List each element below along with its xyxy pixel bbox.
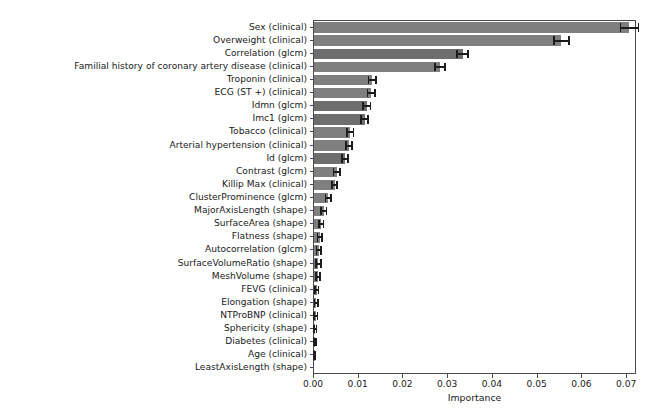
error-bar-cap bbox=[553, 36, 555, 44]
x-axis-tick bbox=[581, 374, 582, 378]
y-axis-tick bbox=[310, 367, 314, 368]
error-bar-cap bbox=[351, 141, 353, 149]
error-bar-cap bbox=[323, 220, 325, 228]
y-axis-tick bbox=[310, 315, 314, 316]
error-bar-cap bbox=[467, 50, 469, 58]
x-axis-tick-label: 0.05 bbox=[527, 379, 547, 390]
error-bar-cap bbox=[336, 181, 338, 189]
y-axis-label: Contrast (glcm) bbox=[236, 166, 307, 176]
y-axis-label: MeshVolume (shape) bbox=[212, 271, 307, 281]
y-axis-tick bbox=[310, 53, 314, 54]
error-bar-cap bbox=[315, 338, 317, 346]
bar-row bbox=[314, 336, 635, 349]
y-axis-tick bbox=[310, 27, 314, 28]
y-axis-tick bbox=[310, 92, 314, 93]
error-bar-cap bbox=[375, 76, 377, 84]
error-bar-cap bbox=[320, 207, 322, 215]
x-axis-tick-label: 0.03 bbox=[437, 379, 457, 390]
error-bar-cap bbox=[347, 154, 349, 162]
y-axis-tick bbox=[310, 158, 314, 159]
error-bar-cap bbox=[313, 312, 315, 320]
y-axis-label: Familial history of coronary artery dise… bbox=[74, 61, 307, 71]
bar-row bbox=[314, 34, 635, 47]
error-bar-cap bbox=[314, 286, 316, 294]
bar bbox=[314, 62, 440, 72]
error-bar-cap bbox=[362, 102, 364, 110]
y-axis-label: MajorAxisLength (shape) bbox=[194, 205, 307, 215]
error-bar-cap bbox=[319, 272, 321, 280]
bar bbox=[314, 101, 367, 111]
feature-importance-figure: Sex (clinical)Overweight (clinical)Corre… bbox=[0, 0, 670, 415]
error-bar-cap bbox=[331, 181, 333, 189]
error-bar-cap bbox=[353, 128, 355, 136]
error-bar-cap bbox=[568, 36, 570, 44]
x-axis-tick-label: 0.01 bbox=[348, 379, 368, 390]
y-axis-label: FEVG (clinical) bbox=[241, 284, 307, 294]
error-bar-cap bbox=[318, 286, 320, 294]
y-axis-tick bbox=[310, 341, 314, 342]
bar-row bbox=[314, 191, 635, 204]
y-axis-tick bbox=[310, 289, 314, 290]
bar-row bbox=[314, 60, 635, 73]
y-axis-label: Killip Max (clinical) bbox=[222, 179, 307, 189]
error-bar-cap bbox=[367, 115, 369, 123]
bar bbox=[314, 22, 629, 32]
error-bar-cap bbox=[620, 23, 622, 31]
y-axis-tick bbox=[310, 354, 314, 355]
error-bar-cap bbox=[318, 220, 320, 228]
bar-row bbox=[314, 87, 635, 100]
error-bar-cap bbox=[434, 63, 436, 71]
bar-row bbox=[314, 349, 635, 362]
bar-row bbox=[314, 126, 635, 139]
error-bar-cap bbox=[315, 351, 317, 359]
bar-row bbox=[314, 218, 635, 231]
y-axis-label: Elongation (shape) bbox=[221, 297, 307, 307]
error-bar-cap bbox=[374, 89, 376, 97]
bar-row bbox=[314, 283, 635, 296]
x-axis-tick-label: 0.00 bbox=[303, 379, 323, 390]
bar-row bbox=[314, 205, 635, 218]
error-bar-cap bbox=[326, 207, 328, 215]
error-bar-cap bbox=[368, 76, 370, 84]
error-bar-cap bbox=[341, 154, 343, 162]
bar-row bbox=[314, 152, 635, 165]
y-axis-tick bbox=[310, 131, 314, 132]
bar bbox=[314, 127, 350, 137]
y-axis-label: Correlation (glcm) bbox=[225, 48, 307, 58]
bar-row bbox=[314, 257, 635, 270]
x-axis-tick bbox=[537, 374, 538, 378]
error-bar-cap bbox=[638, 23, 640, 31]
x-axis-tick bbox=[358, 374, 359, 378]
error-bar-cap bbox=[456, 50, 458, 58]
y-axis-label: Overweight (clinical) bbox=[213, 35, 307, 45]
error-bar-cap bbox=[317, 299, 319, 307]
y-axis-label: Imc1 (glcm) bbox=[253, 113, 307, 123]
error-bar-line bbox=[620, 27, 638, 29]
x-axis-tick-label: 0.06 bbox=[571, 379, 591, 390]
y-axis-label: SurfaceArea (shape) bbox=[214, 218, 307, 228]
bar bbox=[314, 140, 349, 150]
bar-row bbox=[314, 73, 635, 86]
bar-row bbox=[314, 113, 635, 126]
error-bar-cap bbox=[321, 233, 323, 241]
error-bar-cap bbox=[317, 233, 319, 241]
error-bar-cap bbox=[313, 325, 315, 333]
error-bar-cap bbox=[367, 89, 369, 97]
y-axis-label: Idmn (glcm) bbox=[252, 100, 307, 110]
x-axis-tick-label: 0.02 bbox=[392, 379, 412, 390]
y-axis-tick bbox=[310, 118, 314, 119]
error-bar-cap bbox=[333, 168, 335, 176]
bar bbox=[314, 49, 463, 59]
bar-row bbox=[314, 362, 635, 375]
y-axis-tick bbox=[310, 276, 314, 277]
y-axis-label: Sphericity (shape) bbox=[224, 323, 307, 333]
y-axis-label: Autocorrelation (glcm) bbox=[205, 244, 307, 254]
error-bar-cap bbox=[315, 259, 317, 267]
y-axis-tick bbox=[310, 249, 314, 250]
error-bar-cap bbox=[339, 168, 341, 176]
y-axis-tick bbox=[310, 223, 314, 224]
bar-row bbox=[314, 165, 635, 178]
y-axis-label: Arterial hypertension (clinical) bbox=[169, 140, 307, 150]
y-axis-tick bbox=[310, 210, 314, 211]
bar-row bbox=[314, 139, 635, 152]
